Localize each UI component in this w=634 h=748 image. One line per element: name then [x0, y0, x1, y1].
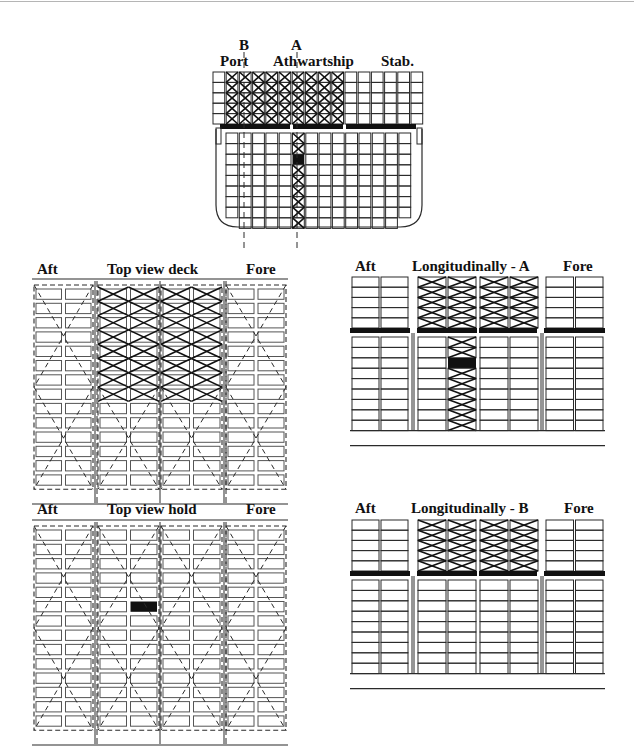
- coaming-post: [417, 128, 422, 144]
- hold-cell: [480, 580, 508, 590]
- container-cell: [228, 687, 254, 697]
- hold-cell: [279, 165, 291, 176]
- container-cell: [228, 573, 254, 583]
- hold-cell: [386, 144, 398, 155]
- hold-cell: [418, 410, 446, 420]
- container-cell: [258, 659, 284, 669]
- deck-cell: [385, 72, 397, 82]
- hold-cell: [546, 399, 574, 409]
- deck-cell: [385, 93, 397, 103]
- container-cell: [163, 573, 190, 583]
- hold-cell: [576, 590, 604, 600]
- deck-cell: [358, 93, 370, 103]
- container-cell: [258, 346, 284, 356]
- hold-cell: [510, 389, 538, 399]
- hold-cell: [226, 165, 238, 176]
- deck-cell: [213, 82, 225, 92]
- hold-cell: [576, 663, 604, 673]
- hold-cell: [381, 358, 408, 368]
- hold-cell: [319, 133, 331, 144]
- deck-cell: [381, 520, 408, 530]
- hold-cell: [480, 379, 508, 389]
- deck-cell: [576, 551, 604, 561]
- deck-cell: [381, 297, 408, 307]
- container-cell: [228, 418, 254, 428]
- deck-cell: [352, 530, 379, 540]
- hold-cell: [546, 347, 574, 357]
- container-cell: [258, 432, 284, 442]
- deck-cell: [358, 103, 370, 113]
- container-cell: [131, 687, 158, 697]
- hold-cell: [510, 358, 538, 368]
- hold-cell: [352, 622, 379, 632]
- container-cell: [194, 702, 221, 712]
- hold-cell: [359, 144, 371, 155]
- container-cell: [66, 616, 92, 626]
- hold-cell: [546, 663, 574, 673]
- container-cell: [131, 673, 158, 683]
- deck-cell: [576, 318, 604, 328]
- hold-cell: [381, 622, 408, 632]
- hatch-cover-bar: [293, 124, 343, 129]
- container-cell: [228, 446, 254, 456]
- container-cell: [36, 587, 62, 597]
- container-cell: [131, 544, 158, 554]
- hold-cell: [319, 186, 331, 197]
- container-cell: [258, 475, 284, 485]
- hold-cell: [510, 580, 538, 590]
- hold-cell: [576, 611, 604, 621]
- hold-cell: [480, 389, 508, 399]
- container-cell: [228, 461, 254, 471]
- hold-cell: [418, 642, 446, 652]
- hold-cell: [576, 642, 604, 652]
- hold-cell: [266, 144, 278, 155]
- hold-cell: [346, 144, 358, 155]
- hold-cell: [418, 622, 446, 632]
- hold-cell: [546, 337, 574, 347]
- container-cell: [36, 361, 62, 371]
- hold-cell: [510, 611, 538, 621]
- hold-cell: [372, 186, 384, 197]
- hold-cell: [319, 165, 331, 176]
- hold-cell: [352, 663, 379, 673]
- hold-cell: [266, 186, 278, 197]
- hold-cell: [546, 590, 574, 600]
- deck-cell: [576, 561, 604, 571]
- deck-cell: [411, 93, 423, 103]
- container-cell: [36, 303, 62, 313]
- deck-cell: [213, 114, 225, 124]
- hold-cell: [576, 580, 604, 590]
- deck-cell: [352, 308, 379, 318]
- container-cell: [131, 446, 158, 456]
- hold-cell: [239, 207, 251, 218]
- deck-cell: [576, 287, 604, 297]
- container-cell: [228, 346, 254, 356]
- hold-cell: [510, 622, 538, 632]
- hold-cell: [399, 133, 411, 144]
- container-cell: [194, 544, 221, 554]
- hold-cell: [359, 207, 371, 218]
- container-cell: [66, 659, 92, 669]
- hold-cell: [239, 165, 251, 176]
- hold-cell: [418, 653, 446, 663]
- deck-cell: [352, 318, 379, 328]
- deck-cell: [345, 93, 357, 103]
- hatch-cover-bar: [350, 328, 410, 333]
- container-cell: [66, 587, 92, 597]
- deck-cell: [398, 114, 410, 124]
- container-cell: [36, 702, 62, 712]
- hold-cell: [306, 154, 318, 165]
- hold-cell: [448, 622, 476, 632]
- container-cell: [194, 616, 221, 626]
- hold-cell: [386, 165, 398, 176]
- container-cell: [36, 432, 62, 442]
- container-cell: [66, 716, 92, 726]
- hold-cell: [381, 601, 408, 611]
- container-cell: [66, 432, 92, 442]
- hold-cell: [418, 399, 446, 409]
- hold-cell: [386, 175, 398, 186]
- hold-cell: [480, 632, 508, 642]
- deck-cell: [345, 82, 357, 92]
- container-cell: [163, 461, 190, 471]
- container-cell: [36, 673, 62, 683]
